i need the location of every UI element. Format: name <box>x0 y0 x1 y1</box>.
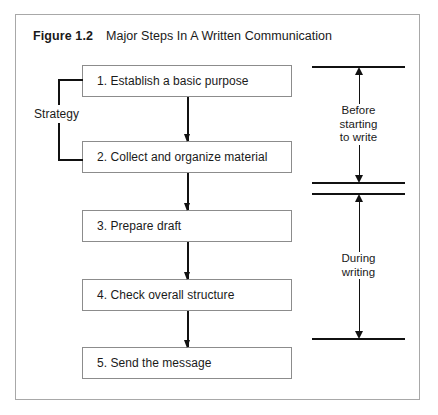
strategy-bracket-arm-bottom <box>58 159 83 161</box>
phase-before-line-2: starting <box>312 118 405 132</box>
step-box-1[interactable]: 1. Establish a basic purpose <box>82 65 292 97</box>
phase-label-before: Before starting to write <box>312 104 405 145</box>
flow-arrow-4-to-5-icon <box>184 311 191 347</box>
step-box-5[interactable]: 5. Send the message <box>82 347 292 379</box>
phase-during-line-2: writing <box>312 266 405 280</box>
step-box-3[interactable]: 3. Prepare draft <box>82 210 292 242</box>
arrow-head-down <box>184 134 190 142</box>
flow-arrow-2-to-3-icon <box>184 173 191 210</box>
arrow-head-down <box>355 331 363 339</box>
phase-label-during: During writing <box>312 252 405 279</box>
flow-arrow-3-to-4-icon <box>184 242 191 279</box>
arrow-head-down <box>184 203 190 211</box>
step-label-3: 3. Prepare draft <box>83 219 181 233</box>
arrow-head-down <box>355 175 363 183</box>
phase-during-line-1: During <box>312 252 405 266</box>
step-box-2[interactable]: 2. Collect and organize material <box>82 141 292 173</box>
flow-arrow-1-to-2-icon <box>184 97 191 141</box>
arrow-head-down <box>184 272 190 280</box>
arrow-head-down <box>184 340 190 348</box>
step-label-2: 2. Collect and organize material <box>83 150 267 164</box>
phase-before-line-3: to write <box>312 131 405 145</box>
phase-before-line-1: Before <box>312 104 405 118</box>
step-label-1: 1. Establish a basic purpose <box>83 74 249 88</box>
strategy-label: Strategy <box>31 105 82 123</box>
figure-title: Major Steps In A Written Communication <box>106 29 332 43</box>
step-label-4: 4. Check overall structure <box>83 288 234 302</box>
figure-number: Figure 1.2 <box>33 29 93 43</box>
figure-caption: Figure 1.2Major Steps In A Written Commu… <box>33 29 332 43</box>
step-box-4[interactable]: 4. Check overall structure <box>82 279 292 311</box>
strategy-bracket-arm-top <box>58 79 83 81</box>
step-label-5: 5. Send the message <box>83 356 211 370</box>
figure-container: Figure 1.2Major Steps In A Written Commu… <box>0 0 438 415</box>
